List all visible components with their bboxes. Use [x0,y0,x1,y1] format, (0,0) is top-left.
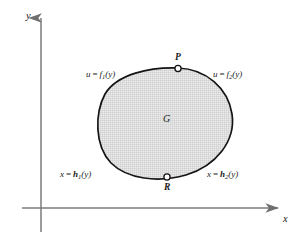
point-marker-p [175,65,181,71]
point-label-p: P [175,53,181,63]
label-x-equals-h2-arg: (y) [228,169,238,179]
figure-canvas: y x u=f1(y) u=f2(y) x=h1(y) x=h2(y) G P … [0,0,301,239]
label-u-equals-f1-sub: 1 [102,73,105,80]
diagram-svg [0,0,301,239]
label-u-equals-f1-arg: (y) [105,69,115,79]
label-u-equals-f2: u=f2(y) [213,70,242,79]
point-label-r: R [164,183,170,193]
label-x-equals-h2-eq: = [211,169,220,179]
label-x-equals-h2-sub: 2 [225,173,228,180]
label-x-equals-h1: x=h1(y) [60,170,91,179]
label-x-equals-h1-sub: 1 [78,173,81,180]
point-marker-r [164,174,170,180]
label-u-equals-f1: u=f1(y) [86,70,115,79]
label-u-equals-f2-lhs: u [213,69,218,79]
label-u-equals-f1-lhs: u [86,69,91,79]
label-x-equals-h1-eq: = [64,169,73,179]
x-axis-label: x [283,214,288,225]
label-u-equals-f2-sub: 2 [229,73,232,80]
label-u-equals-f2-eq: = [218,69,227,79]
label-u-equals-f1-eq: = [91,69,100,79]
label-u-equals-f2-arg: (y) [232,69,242,79]
y-axis-label: y [26,11,31,22]
label-x-equals-h1-arg: (y) [81,169,91,179]
label-x-equals-h2: x=h2(y) [207,170,238,179]
region-label-g: G [163,114,170,124]
